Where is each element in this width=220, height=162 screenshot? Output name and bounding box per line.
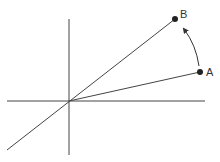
rotation-arrow-icon (184, 29, 199, 66)
point-b (172, 16, 178, 22)
point-b-label: B (180, 8, 187, 20)
point-a-label: A (206, 66, 214, 78)
diagram-canvas: A B (0, 0, 220, 162)
line-through-b (7, 19, 175, 150)
point-a (197, 69, 203, 75)
